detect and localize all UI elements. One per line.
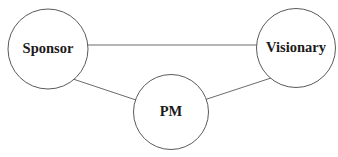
relationship-diagram: Sponsor Visionary PM [0, 0, 338, 157]
visionary-node-label: Visionary [266, 39, 327, 55]
node-sponsor[interactable]: Sponsor [8, 9, 88, 89]
sponsor-node-label: Sponsor [23, 40, 74, 56]
diagram-canvas: Sponsor Visionary PM [0, 0, 338, 157]
edge-sponsor-pm [73, 79, 139, 101]
node-pm[interactable]: PM [134, 75, 209, 150]
node-visionary[interactable]: Visionary [257, 9, 336, 88]
pm-node-label: PM [160, 103, 183, 119]
edge-pm-visionary [204, 78, 271, 100]
